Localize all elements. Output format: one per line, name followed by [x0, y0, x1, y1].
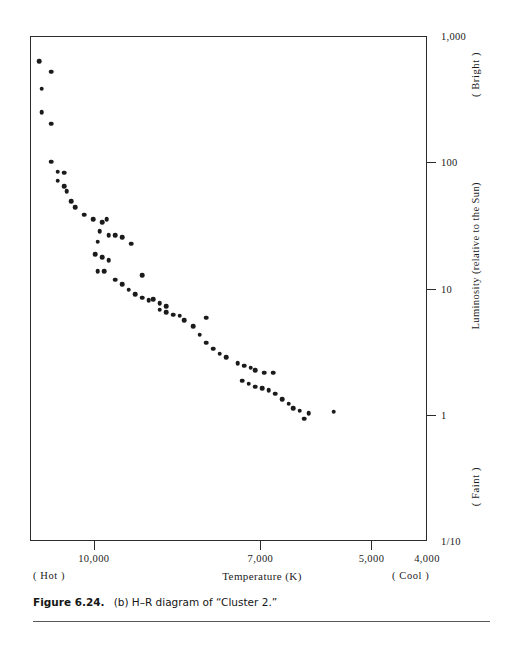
y-axis-tick-mark: [427, 289, 436, 290]
data-point: [178, 313, 183, 318]
data-point: [106, 233, 111, 238]
y-axis-tick-label: 100: [441, 157, 458, 168]
y-axis-tick-label: 1/10: [441, 536, 461, 547]
data-point: [297, 408, 302, 413]
data-point: [262, 370, 267, 375]
data-point: [171, 313, 176, 318]
x-axis-title: Temperature (K): [0, 570, 524, 582]
data-point: [93, 252, 98, 257]
data-point: [95, 269, 100, 274]
data-point: [55, 178, 60, 183]
x-axis-tick-label: 7,000: [248, 553, 274, 564]
data-point: [73, 205, 78, 210]
data-point: [98, 229, 103, 234]
data-point: [37, 59, 42, 64]
x-axis-tick-label: 4,000: [414, 553, 440, 564]
data-point: [133, 292, 138, 297]
data-point: [69, 199, 74, 204]
data-point: [182, 318, 187, 323]
data-point: [64, 189, 69, 194]
y-axis-faint-annotation: ( Faint ): [470, 467, 481, 506]
data-point: [158, 308, 163, 313]
y-axis-bright-annotation: ( Bright ): [470, 52, 481, 97]
data-point: [95, 239, 100, 244]
y-axis-tick-label: 1: [441, 409, 447, 420]
data-point: [266, 388, 271, 393]
data-point: [82, 213, 87, 218]
scatter-plot-area: [31, 37, 426, 540]
x-axis-tick-label: 10,000: [78, 553, 109, 564]
data-point: [242, 363, 247, 368]
data-point: [100, 255, 105, 260]
data-point: [62, 184, 67, 189]
figure-caption: Figure 6.24.(b) H–R diagram of “Cluster …: [33, 596, 277, 608]
figure-caption-text: (b) H–R diagram of “Cluster 2.”: [114, 596, 278, 608]
data-point: [113, 277, 118, 282]
y-axis-title: Luminosity (relative to the Sun): [470, 182, 481, 330]
figure-container: 1,0001001011/1010,0007,0005,0004,000 ( B…: [0, 0, 524, 645]
data-point: [39, 86, 44, 91]
caption-divider: [33, 621, 490, 622]
data-point: [331, 409, 336, 414]
data-point: [120, 282, 125, 287]
x-axis-cool-annotation: ( Cool ): [392, 570, 429, 581]
x-axis-tick-mark: [94, 541, 95, 550]
data-point: [129, 242, 134, 247]
data-point: [62, 171, 67, 176]
data-point: [204, 315, 209, 320]
data-point: [291, 406, 296, 411]
data-point: [104, 217, 109, 222]
data-point: [217, 351, 222, 356]
x-axis-tick-label: 5,000: [359, 553, 385, 564]
data-point: [191, 324, 196, 329]
data-point: [126, 287, 131, 292]
data-point: [164, 310, 169, 315]
data-point: [306, 411, 311, 416]
data-point: [140, 273, 145, 278]
y-axis-tick-mark: [427, 415, 436, 416]
data-point: [158, 301, 163, 306]
data-point: [286, 401, 291, 406]
data-point: [120, 235, 125, 240]
data-point: [113, 233, 118, 238]
y-axis-tick-mark: [427, 162, 436, 163]
data-point: [55, 169, 60, 174]
data-point: [235, 361, 240, 366]
data-point: [211, 346, 216, 351]
data-point: [39, 110, 44, 115]
data-point: [280, 397, 285, 402]
data-point: [204, 340, 209, 345]
data-point: [106, 258, 111, 263]
x-axis-tick-mark: [260, 541, 261, 550]
data-point: [91, 217, 96, 222]
data-point: [151, 297, 156, 302]
data-point: [253, 384, 258, 389]
data-point: [49, 70, 54, 75]
data-point: [49, 159, 54, 164]
data-point: [140, 295, 145, 300]
data-point: [273, 391, 278, 396]
y-axis-tick-label: 10: [441, 283, 452, 294]
data-point: [260, 386, 265, 391]
data-point: [246, 381, 251, 386]
data-point: [271, 370, 276, 375]
data-point: [224, 355, 229, 360]
data-point: [240, 378, 245, 383]
y-axis-tick-label: 1,000: [441, 31, 466, 42]
data-point: [253, 368, 258, 373]
plot-frame: [30, 36, 427, 541]
data-point: [197, 332, 202, 337]
figure-caption-number: Figure 6.24.: [33, 596, 105, 608]
x-axis-tick-mark: [371, 541, 372, 550]
data-point: [302, 416, 307, 421]
data-point: [49, 122, 54, 127]
data-point: [102, 269, 107, 274]
data-point: [164, 304, 169, 309]
